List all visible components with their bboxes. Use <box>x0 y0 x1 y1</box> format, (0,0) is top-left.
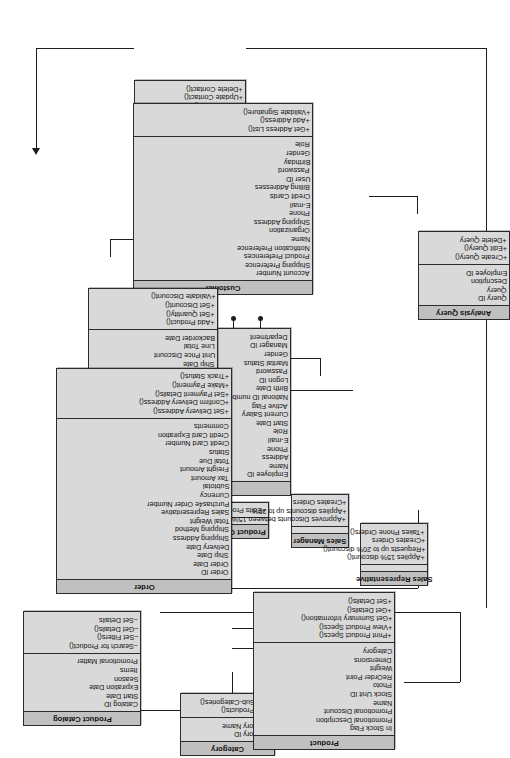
class-customer[interactable]: Customer Account Number Shipping Prefere… <box>133 103 313 295</box>
attributes-compartment: Catalog ID Start Date Expiration Date Se… <box>24 653 140 712</box>
attribute: Role <box>295 140 310 149</box>
operations-compartment: +Get Address List() +Add Address() +Vali… <box>134 104 312 136</box>
attribute: Dimensions <box>354 655 392 664</box>
attribute: Start Date <box>106 691 138 700</box>
attribute: Manager ID <box>250 341 288 350</box>
attribute: Query <box>487 285 507 294</box>
attributes-compartment: Query ID Query Description Employee ID <box>419 264 509 305</box>
class-product[interactable]: Product In Stock Flag Promotional Descri… <box>253 593 395 751</box>
operation: +Creates Orders <box>293 498 346 507</box>
class-name-compartment: Sales Representative <box>361 571 427 585</box>
attribute: Credit Card Expiration <box>158 430 229 439</box>
attribute: Promotional Matter <box>77 657 138 666</box>
operation: +View Product Specs() <box>319 622 392 631</box>
operation: +Set Payment Details() <box>155 389 229 398</box>
attribute: Logon ID <box>259 375 288 384</box>
attribute: Order ID <box>201 568 229 577</box>
operations-compartment: +Approves Discounts between 15% to 20%()… <box>292 495 348 527</box>
class-name-compartment: Analysis Query <box>419 305 509 319</box>
attribute: Purchas4e Order Number <box>147 499 229 508</box>
operation: +Delete Contact() <box>186 84 243 93</box>
class-name: Sales Representative <box>356 574 432 583</box>
class-analysis-query[interactable]: Analysis Query Query ID Query Descriptio… <box>418 231 510 320</box>
attribute: Gender <box>264 350 288 359</box>
operation: +Print Product Specs() <box>319 631 392 640</box>
attribute: Phone <box>267 444 288 453</box>
connector-line <box>246 48 486 49</box>
attribute: Marital Status <box>244 358 288 367</box>
attribute: Shipping Method <box>175 525 229 534</box>
attributes-compartment <box>361 564 427 571</box>
operation: +Set Details() <box>348 597 392 606</box>
attribute: Credit Card Number <box>165 439 229 448</box>
operation: +Track Status() <box>180 372 229 381</box>
class-sales-manager[interactable]: Sales Manager +Approves Discounts betwee… <box>291 494 349 548</box>
attribute: Subtotal <box>203 482 229 491</box>
attribute: Status <box>209 448 229 457</box>
operation: +Create Query() <box>455 252 507 261</box>
class-product-catalog[interactable]: Product Catalog Catalog ID Start Date Ex… <box>23 611 141 726</box>
attribute: User ID <box>286 174 310 183</box>
class-name: Category <box>211 744 244 753</box>
attribute: Order Date <box>193 559 229 568</box>
attribute: Promotional Description <box>316 715 392 724</box>
operation: +Applies discounts up to 20% <box>252 506 347 515</box>
attribute: Ship Date <box>183 359 215 368</box>
attribute: Account Number <box>256 269 310 278</box>
class-name: Order <box>134 582 155 591</box>
operation: +Edit Query() <box>464 244 507 253</box>
attribute: Season <box>114 674 138 683</box>
connector-line <box>369 196 417 197</box>
connector-line <box>417 196 418 214</box>
attribute: Name <box>269 461 288 470</box>
operation: –Search for Product() <box>69 641 138 650</box>
connector-line <box>320 358 321 376</box>
attribute: Catalog ID <box>104 700 138 709</box>
operation: +Validate Discount() <box>151 292 215 301</box>
operation: +Add Address() <box>260 116 310 125</box>
operation: +Make Payment() <box>172 380 229 389</box>
attribute: Backorder Date <box>165 333 215 342</box>
attributes-compartment: Order ID Order Date Ship Date Delivery D… <box>57 418 231 580</box>
attribute: ReOrder Point <box>346 672 392 681</box>
connector-line <box>36 48 134 49</box>
class-name: Product Catalog <box>53 714 112 723</box>
operation: +Takes Phone Orders() <box>350 527 425 536</box>
operations-compartment: +Add Product() +Set Quantity() +Set Disc… <box>89 289 217 329</box>
operation: +Get Address List() <box>248 124 310 133</box>
attribute: Line Total <box>184 342 215 351</box>
operation: +Get Details() <box>347 605 392 614</box>
class-name-compartment: Order <box>57 579 231 593</box>
attribute: National ID number <box>226 392 288 401</box>
attribute: Birthday <box>284 157 310 166</box>
operations-compartment: +Print Product Specs() +View Product Spe… <box>254 594 394 643</box>
attribute: Gender <box>286 149 310 158</box>
operations-compartment: +Set Delivery Address() +Confirm Deliver… <box>57 369 231 418</box>
class-sales-representative[interactable]: Sales Representative +Applies 15% discou… <box>360 523 428 586</box>
attribute: Birth Date <box>256 384 288 393</box>
attribute: Name <box>291 234 310 243</box>
attribute: Credit Cards <box>270 191 310 200</box>
attribute: Active Flag <box>252 401 288 410</box>
operation: +Applies 15% discount() <box>347 553 425 562</box>
attribute: E-mail <box>268 435 288 444</box>
attribute: Items <box>120 665 138 674</box>
attribute: In Stock Flag <box>350 724 392 733</box>
attribute: Stock Unit ID <box>350 689 392 698</box>
operations-compartment: –Search for Product() –Set Filters() –Ge… <box>24 612 140 652</box>
operation: +Delete Query <box>460 235 507 244</box>
operation: –Get Details() <box>94 624 138 633</box>
class-order[interactable]: Order Order ID Order Date Ship Date Deli… <box>56 368 232 594</box>
operation: +Set Delivery Address() <box>153 406 229 415</box>
connector-line <box>36 48 37 148</box>
attribute: Shipping Preference <box>245 260 310 269</box>
attribute: Shipping Address <box>173 533 229 542</box>
operations-compartment: +Create Query() +Edit Query() +Delete Qu… <box>419 232 509 264</box>
attribute: Photo <box>373 681 392 690</box>
attribute: Unit Price Discount <box>154 350 215 359</box>
attribute: Employee ID <box>466 268 507 277</box>
operation: –Set Details <box>99 615 138 624</box>
attribute: Start Date <box>256 418 288 427</box>
class-name: Product <box>310 738 339 747</box>
